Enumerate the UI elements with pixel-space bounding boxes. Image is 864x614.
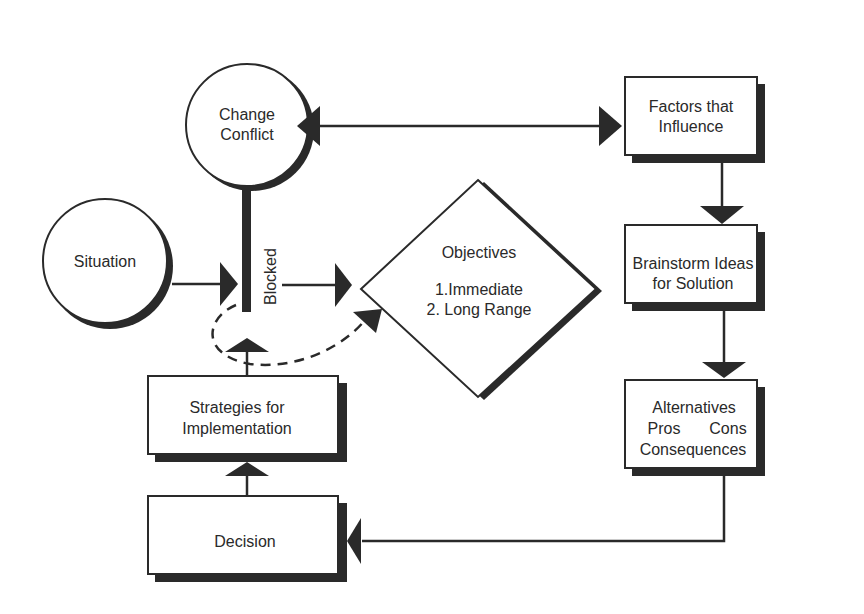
node-label-line: Cons (709, 420, 746, 437)
node-label-line: Consequences (640, 441, 747, 458)
node-label-line: Conflict (220, 126, 274, 143)
node-label-line: 1.Immediate (435, 281, 523, 298)
node-factors[interactable]: Factors that Influence (625, 77, 765, 163)
node-alternatives[interactable]: Alternatives Pros Cons Consequences (625, 380, 765, 476)
circle-shape (186, 64, 308, 186)
flow-diagram: Change Conflict Blocked Situation Object… (0, 0, 864, 614)
node-label-line: Implementation (182, 420, 291, 437)
node-label-line: Factors that (649, 98, 734, 115)
node-strategies[interactable]: Strategies for Implementation (148, 376, 347, 462)
node-label-line: 2. Long Range (427, 301, 532, 318)
node-label-line: Decision (214, 533, 275, 550)
blocked-bar (242, 185, 251, 312)
node-label-line: Objectives (442, 244, 517, 261)
blocked-label: Blocked (262, 248, 279, 305)
node-brainstorm[interactable]: Brainstorm Ideas for Solution (625, 225, 765, 311)
node-label-line: Strategies for (189, 399, 285, 416)
node-label-line: Influence (659, 118, 724, 135)
node-label-line: Situation (74, 253, 136, 270)
node-label-line: Change (219, 106, 275, 123)
node-label-line: for Solution (653, 275, 734, 292)
node-label-line: Pros (648, 420, 681, 437)
node-label-line: Brainstorm Ideas (633, 255, 754, 272)
box-shape (625, 77, 757, 155)
node-label-line: Alternatives (652, 399, 736, 416)
node-decision[interactable]: Decision (148, 496, 347, 582)
